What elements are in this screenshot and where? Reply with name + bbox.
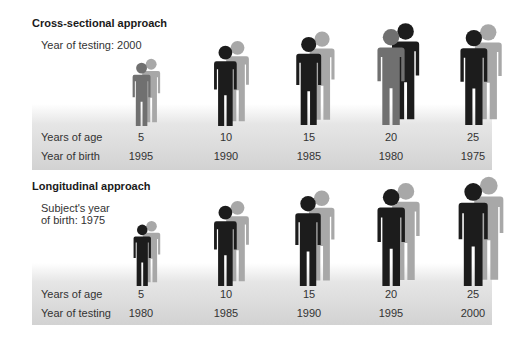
- cs-age-cell: 20: [366, 131, 416, 143]
- lg-age-cell: 20: [366, 288, 416, 300]
- cs-year-cell: 1975: [448, 150, 498, 162]
- cross-sectional-age-label: Years of age: [41, 131, 102, 143]
- cross-sectional-birth-label: Year of birth: [41, 150, 100, 162]
- lg-age-cell: 15: [284, 288, 334, 300]
- cross-sectional-figure-pair-4: [375, 28, 423, 125]
- cs-year-cell: 1995: [116, 150, 166, 162]
- longitudinal-testing-label: Year of testing: [41, 307, 111, 319]
- longitudinal-age-label: Years of age: [41, 288, 102, 300]
- lg-year-cell: 1995: [366, 307, 416, 319]
- longitudinal-figure-pair-2: [212, 205, 252, 286]
- longitudinal-figure-pair-4: [375, 188, 423, 286]
- cs-age-cell: 10: [201, 131, 251, 143]
- longitudinal-title: Longitudinal approach: [32, 180, 151, 192]
- lg-age-cell: 10: [201, 288, 251, 300]
- longitudinal-figure-pair-3: [293, 195, 338, 286]
- cross-sectional-title: Cross-sectional approach: [32, 17, 167, 29]
- cs-year-cell: 1990: [201, 150, 251, 162]
- cs-age-cell: 25: [448, 131, 498, 143]
- cross-sectional-figure-pair-1: [131, 62, 162, 126]
- cross-sectional-figure-pair-3: [294, 36, 338, 125]
- cs-year-cell: 1980: [366, 150, 416, 162]
- cs-year-cell: 1985: [284, 150, 334, 162]
- longitudinal-subtitle: Subject's year of birth: 1975: [41, 202, 110, 226]
- lg-year-cell: 1985: [201, 307, 251, 319]
- lg-year-cell: 1990: [284, 307, 334, 319]
- lg-year-cell: 1980: [116, 307, 166, 319]
- cross-sectional-figure-pair-2: [212, 45, 252, 126]
- cross-sectional-figure-pair-5: [458, 29, 505, 125]
- lg-year-cell: 2000: [448, 307, 498, 319]
- cs-age-cell: 5: [116, 131, 166, 143]
- longitudinal-figure-pair-5: [456, 182, 507, 286]
- longitudinal-figure-pair-1: [132, 224, 162, 286]
- cs-age-cell: 15: [284, 131, 334, 143]
- lg-age-cell: 25: [448, 288, 498, 300]
- lg-age-cell: 5: [116, 288, 166, 300]
- cross-sectional-subtitle: Year of testing: 2000: [41, 39, 142, 51]
